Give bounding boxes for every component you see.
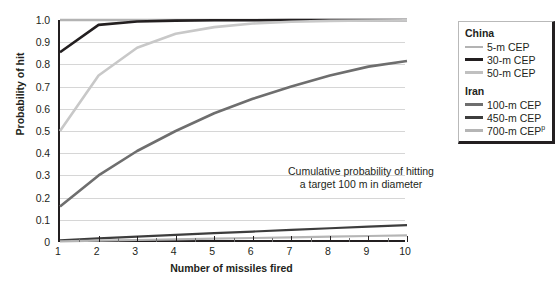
- x-tick-label: 3: [132, 245, 138, 257]
- legend-color-swatch: [465, 129, 483, 132]
- x-tick-mark: [368, 236, 369, 242]
- legend-color-swatch: [465, 103, 483, 106]
- x-minor-tick-mark: [79, 238, 80, 242]
- x-minor-tick-mark: [118, 238, 119, 242]
- x-tick-mark: [214, 236, 215, 242]
- x-minor-tick-mark: [234, 238, 235, 242]
- x-axis-tick-labels: 12345678910: [58, 245, 405, 261]
- x-tick-label: 10: [399, 245, 411, 257]
- x-minor-tick-mark: [195, 238, 196, 242]
- legend-group-title: Iran: [465, 85, 547, 97]
- series-curves: [60, 20, 407, 242]
- x-tick-label: 2: [94, 245, 100, 257]
- x-tick-mark: [330, 236, 331, 242]
- y-axis-tick-labels: 00.10.20.30.40.50.60.70.80.91.0: [0, 20, 54, 242]
- x-tick-mark: [99, 236, 100, 242]
- legend-entry[interactable]: 50-m CEP: [465, 66, 547, 79]
- legend-entry[interactable]: 100-m CEP: [465, 98, 547, 111]
- plot-area: Cumulative probability of hitting a targ…: [58, 20, 405, 242]
- legend-entry[interactable]: 5-m CEP: [465, 40, 547, 53]
- chart-figure: Probability of hit 00.10.20.30.40.50.60.…: [0, 0, 560, 291]
- legend-entry[interactable]: 30-m CEP: [465, 53, 547, 66]
- figure-caption: [2, 283, 558, 291]
- legend-label: 100-m CEP: [487, 99, 541, 111]
- legend-label: 30-m CEP: [487, 54, 535, 66]
- annotation-line-1: Cumulative probability of hitting: [256, 165, 466, 178]
- legend-color-swatch: [465, 71, 483, 74]
- x-axis-title: Number of missiles fired: [58, 262, 405, 274]
- legend-group-title: China: [465, 27, 547, 39]
- legend-label: 700-m CEPp: [487, 124, 545, 137]
- x-tick-label: 9: [364, 245, 370, 257]
- x-tick-label: 7: [286, 245, 292, 257]
- legend-label: 50-m CEP: [487, 67, 535, 79]
- x-tick-mark: [291, 236, 292, 242]
- x-tick-mark: [407, 236, 408, 242]
- x-minor-tick-mark: [311, 238, 312, 242]
- y-tick-label: 0.9: [36, 36, 50, 48]
- plot-annotation: Cumulative probability of hitting a targ…: [256, 165, 466, 191]
- x-minor-tick-mark: [349, 238, 350, 242]
- legend-color-swatch: [465, 46, 483, 48]
- series-line: [60, 20, 407, 131]
- y-tick-label: 0.7: [36, 81, 50, 93]
- x-minor-tick-mark: [388, 238, 389, 242]
- legend-entry[interactable]: 700-m CEPp: [465, 124, 547, 137]
- y-tick-label: 0: [44, 236, 50, 248]
- x-tick-label: 1: [55, 245, 61, 257]
- x-tick-label: 4: [171, 245, 177, 257]
- x-minor-tick-mark: [272, 238, 273, 242]
- x-tick-label: 8: [325, 245, 331, 257]
- chart-legend[interactable]: China5-m CEP30-m CEP50-m CEPIran100-m CE…: [458, 21, 555, 144]
- legend-color-swatch: [465, 116, 483, 119]
- y-tick-label: 0.8: [36, 58, 50, 70]
- annotation-line-2: a target 100 m in diameter: [256, 178, 466, 191]
- y-tick-label: 0.4: [36, 147, 50, 159]
- y-tick-label: 0.1: [36, 214, 50, 226]
- x-minor-tick-mark: [156, 238, 157, 242]
- y-tick-label: 0.2: [36, 192, 50, 204]
- legend-entry[interactable]: 450-m CEP: [465, 111, 547, 124]
- x-tick-mark: [253, 236, 254, 242]
- y-tick-label: 1.0: [36, 14, 50, 26]
- y-tick-label: 0.6: [36, 103, 50, 115]
- legend-label: 450-m CEP: [487, 112, 541, 124]
- legend-color-swatch: [465, 58, 483, 61]
- x-tick-mark: [176, 236, 177, 242]
- x-tick-mark: [137, 236, 138, 242]
- x-tick-label: 5: [209, 245, 215, 257]
- y-tick-label: 0.5: [36, 125, 50, 137]
- x-tick-label: 6: [248, 245, 254, 257]
- y-tick-label: 0.3: [36, 169, 50, 181]
- legend-label: 5-m CEP: [487, 41, 530, 53]
